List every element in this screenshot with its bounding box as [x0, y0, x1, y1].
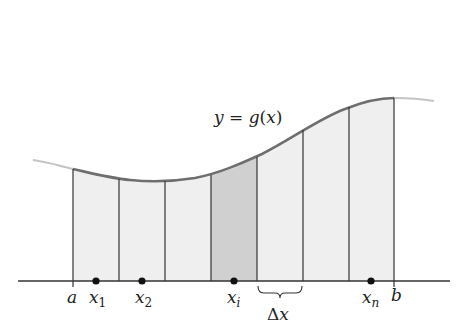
rectangle-7 [349, 98, 394, 281]
label-xn: xn [362, 287, 379, 310]
curve-extension-left [33, 160, 73, 169]
label-delta-x: Δx [267, 304, 289, 324]
label-a: a [67, 287, 77, 307]
rectangle-2 [119, 179, 165, 281]
label-x2: x2 [135, 287, 152, 310]
rectangle-1 [73, 169, 119, 281]
rectangle-6 [303, 107, 349, 281]
curve-extension-right [394, 98, 434, 101]
label-xi: xi [227, 287, 241, 310]
point-xn [367, 277, 374, 284]
point-x2 [138, 277, 145, 284]
delta-x-brace [258, 286, 302, 298]
riemann-sum-diagram: y = g(x) a x1 x2 xi xn b Δx [0, 0, 462, 332]
point-xi [230, 277, 237, 284]
rectangle-highlighted [211, 157, 257, 281]
rectangle-3 [165, 175, 211, 281]
curve-label: y = g(x) [213, 107, 282, 127]
point-x1 [92, 277, 99, 284]
label-x1: x1 [89, 287, 106, 310]
label-b: b [391, 285, 402, 305]
